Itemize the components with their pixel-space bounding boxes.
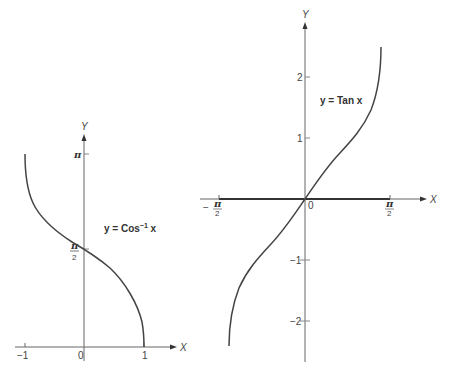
tan-y-axis-label: Y bbox=[302, 9, 310, 20]
tan-ytick-label-1: 1 bbox=[297, 133, 303, 144]
tan-graph: X Y − π 2 π 2 0 2 1 −1 −2 y = Tan x bbox=[200, 9, 437, 362]
arccos-ytick-label-half-pi-den: 2 bbox=[72, 253, 77, 262]
tan-ytick-label-2: 2 bbox=[297, 72, 303, 83]
arccos-x-axis-label: X bbox=[179, 342, 187, 353]
arccos-xtick-label-0: 0 bbox=[78, 350, 84, 361]
tan-equation-label: y = Tan x bbox=[320, 95, 363, 106]
tan-xtick-label-neg-den: 2 bbox=[215, 209, 220, 218]
tan-ytick-label-neg2: −2 bbox=[290, 316, 302, 327]
arccos-ytick-label-pi: π bbox=[73, 149, 82, 160]
arccos-equation-label: y = Cos−1 x bbox=[104, 222, 157, 234]
tan-x-arrow-icon bbox=[420, 197, 427, 202]
tan-x-axis-label: X bbox=[429, 194, 437, 205]
tan-ytick-label-neg1: −1 bbox=[290, 255, 302, 266]
tan-origin-label: 0 bbox=[308, 200, 314, 211]
arccos-y-axis-label: Y bbox=[81, 121, 89, 132]
tan-y-arrow-icon bbox=[303, 22, 308, 29]
arccos-y-arrow-icon bbox=[82, 134, 87, 141]
arccos-xtick-label-1: 1 bbox=[142, 350, 148, 361]
tan-xtick-label-neg-sign: − bbox=[203, 202, 209, 213]
figure: X Y −1 0 1 π π 2 y = Cos−1 x X Y bbox=[0, 0, 449, 382]
tan-xtick-label-pos-num: π bbox=[385, 198, 394, 209]
arccos-graph: X Y −1 0 1 π π 2 y = Cos−1 x bbox=[15, 121, 187, 361]
arccos-x-arrow-icon bbox=[170, 345, 177, 350]
tan-xtick-label-pos-den: 2 bbox=[387, 209, 392, 218]
arccos-xtick-label-neg1: −1 bbox=[17, 350, 29, 361]
tan-xtick-label-neg-num: π bbox=[213, 198, 222, 209]
